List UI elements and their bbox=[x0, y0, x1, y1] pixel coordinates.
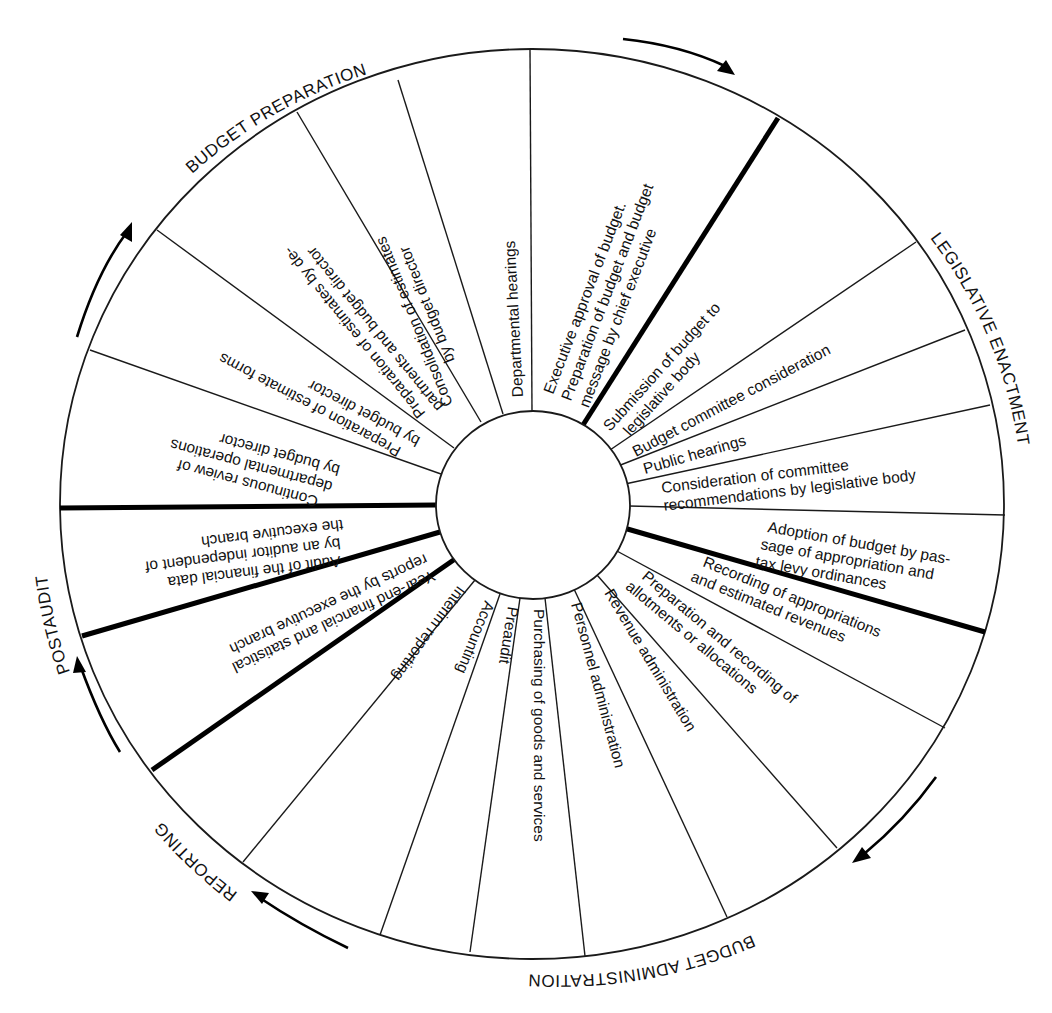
arrow-icon-top bbox=[623, 39, 725, 66]
arrow-icon-bottom-left bbox=[260, 898, 348, 948]
center-hub bbox=[436, 411, 630, 599]
phase-label-reporting: REPORTING bbox=[150, 818, 240, 905]
spoke bbox=[530, 49, 532, 411]
phase-label-legislative-enactment: LEGISLATIVE ENACTMENT bbox=[927, 229, 1033, 447]
spoke-phase-divider bbox=[60, 505, 436, 508]
segment-label-preaudit: Preaudit bbox=[496, 606, 522, 666]
segment-label-continuous-review: Continuous review of departmental operat… bbox=[159, 418, 341, 514]
phase-label-budget-preparation: BUDGET PREPARATION bbox=[182, 60, 369, 177]
arrowhead-icon-left bbox=[73, 656, 86, 673]
spoke bbox=[398, 80, 503, 414]
segment-label-departmental-hearings: Departmental hearings bbox=[501, 240, 526, 398]
segment-label-purchasing: Purchasing of goods and services bbox=[531, 609, 548, 842]
segment-label-audit: Audit of the financial data by an audito… bbox=[138, 516, 349, 594]
phase-label-budget-administration: BUDGET ADMINISTRATION bbox=[528, 931, 758, 990]
arrow-icon-left bbox=[80, 665, 120, 752]
spoke bbox=[615, 550, 945, 728]
segment-label-personnel-administration: Personnel administration bbox=[568, 600, 629, 769]
spoke bbox=[610, 242, 916, 450]
spoke bbox=[545, 598, 585, 956]
budget-cycle-wheel: Executive approval of budget. Preparatio… bbox=[0, 0, 1052, 1013]
